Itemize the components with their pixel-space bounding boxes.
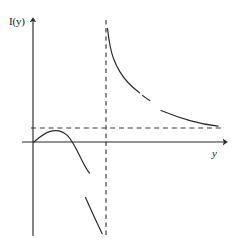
- y-axis-label: I(y): [9, 16, 25, 27]
- figure-canvas: I(y) y: [0, 0, 244, 244]
- plot-area: [0, 0, 244, 244]
- curve-branch-left-lower-tail: [86, 198, 103, 234]
- x-axis-label: y: [212, 148, 217, 159]
- curve-branch-far-right: [161, 111, 218, 127]
- curve-branch-right-upper: [108, 29, 140, 93]
- curve-branch-right-upper-stub: [143, 95, 150, 100]
- curve-branch-left-below-asymptote: [34, 131, 90, 174]
